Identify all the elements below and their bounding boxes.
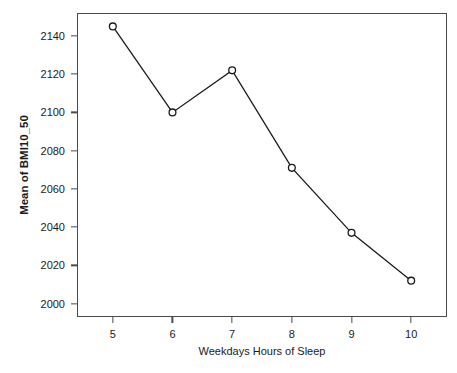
y-tick-label: 2000 — [7, 298, 65, 310]
x-tick-mark — [351, 317, 352, 323]
y-tick-mark — [71, 150, 77, 151]
x-tick-label: 6 — [169, 328, 175, 340]
x-tick-mark — [172, 317, 173, 323]
y-tick-mark — [71, 265, 77, 266]
x-tick-mark — [112, 317, 113, 323]
y-tick-mark — [71, 35, 77, 36]
x-tick-mark — [291, 317, 292, 323]
y-tick-mark — [71, 74, 77, 75]
x-axis-title: Weekdays Hours of Sleep — [77, 345, 447, 357]
x-tick-mark — [411, 317, 412, 323]
y-tick-mark — [71, 112, 77, 113]
x-tick-mark — [232, 317, 233, 323]
line-chart: Mean of BMI10_50 20002020204020602080210… — [0, 0, 457, 373]
plot-area — [77, 13, 447, 317]
x-tick-label: 8 — [289, 328, 295, 340]
y-tick-mark — [71, 188, 77, 189]
y-tick-label: 2100 — [7, 106, 65, 118]
y-axis-title-label: Mean of BMI10_50 — [12, 0, 36, 330]
x-tick-label: 7 — [229, 328, 235, 340]
x-tick-label: 9 — [348, 328, 354, 340]
y-tick-label: 2060 — [7, 183, 65, 195]
y-tick-label: 2020 — [7, 259, 65, 271]
x-tick-label: 5 — [110, 328, 116, 340]
y-tick-label: 2140 — [7, 30, 65, 42]
y-tick-mark — [71, 303, 77, 304]
y-axis-title: Mean of BMI10_50 — [12, 0, 36, 330]
x-tick-label: 10 — [405, 328, 417, 340]
y-tick-label: 2040 — [7, 221, 65, 233]
y-tick-mark — [71, 226, 77, 227]
y-tick-label: 2120 — [7, 68, 65, 80]
y-tick-label: 2080 — [7, 145, 65, 157]
